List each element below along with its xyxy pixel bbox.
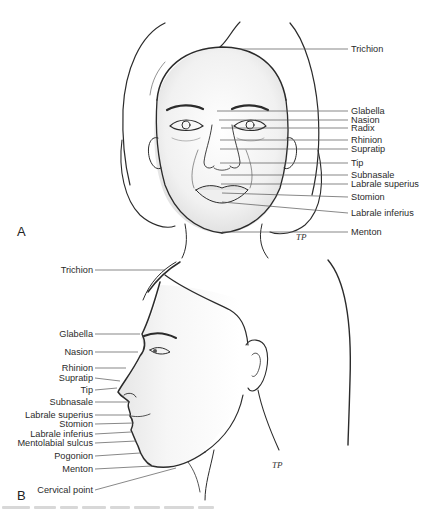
label-a-tip: Tip [351,158,363,168]
label-b-rhinion: Rhinion [62,363,93,373]
label-b-pogonion: Pogonion [54,451,93,461]
facial-landmarks-figure: TP [0,0,429,514]
label-b-nasion: Nasion [64,347,93,357]
label-b-tip: Tip [81,385,93,395]
artist-signature-a: TP [296,232,307,242]
panel-letter-a: A [17,224,26,239]
panel-letter-b: B [17,488,26,503]
label-b-menton: Menton [62,464,93,474]
label-a-stomion: Stomion [351,192,385,202]
label-a-labrale-inferius: Labrale inferius [351,208,414,218]
label-b-cervical-point: Cervical point [37,485,93,495]
label-b-subnasale: Subnasale [50,397,93,407]
label-b-stomion: Stomion [59,419,93,429]
label-a-labrale-superius: Labrale superius [351,179,419,189]
label-b-mentolabial-sulcus: Mentolabial sulcus [17,438,93,448]
label-a-trichion: Trichion [351,44,383,54]
label-b-trichion: Trichion [61,265,93,275]
lateral-face-drawing: TP [118,260,350,500]
label-b-supratip: Supratip [59,373,93,383]
label-a-supratip: Supratip [351,144,385,154]
label-b-glabella: Glabella [59,329,93,339]
figure-caption-faded [0,504,429,510]
label-a-menton: Menton [351,227,382,237]
artist-signature-b: TP [272,460,283,470]
label-a-radix: Radix [351,123,375,133]
